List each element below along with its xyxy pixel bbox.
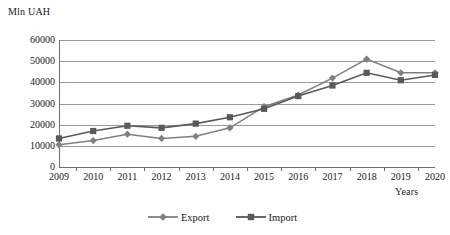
x-axis-tick-mark (281, 167, 282, 171)
x-axis-tick-label: 2014 (214, 172, 246, 182)
square-marker-icon (158, 125, 164, 131)
series-line-import (59, 73, 435, 139)
x-axis-tick-label: 2016 (282, 172, 314, 182)
y-axis-tick-label: 10000 (30, 141, 55, 151)
y-axis-tick-label: 50000 (30, 56, 55, 66)
y-axis-tick-labels: 0100002000030000400005000060000 (0, 34, 55, 174)
square-marker-icon (227, 114, 233, 120)
x-axis-tick-mark (315, 167, 316, 171)
square-marker-icon (295, 93, 301, 99)
square-marker-icon (329, 82, 335, 88)
x-axis-tick-mark (144, 167, 145, 171)
square-marker-icon (90, 128, 96, 134)
series-layer (59, 40, 435, 167)
square-marker-icon (124, 123, 130, 129)
diamond-marker-icon (192, 133, 199, 140)
x-axis-tick-mark (76, 167, 77, 171)
x-axis-tick-mark (247, 167, 248, 171)
x-axis-tick-label: 2010 (77, 172, 109, 182)
x-axis-tick-labels: 2009201020112012201320142015201620172018… (59, 172, 435, 186)
x-axis-tick-label: 2017 (316, 172, 348, 182)
y-axis-tick-label: 40000 (30, 77, 55, 87)
x-axis-tick-label: 2011 (111, 172, 143, 182)
x-axis-tick-mark (418, 167, 419, 171)
legend-item-export[interactable]: Export (148, 211, 210, 223)
x-axis-title: Years (395, 186, 418, 197)
x-axis-tick-label: 2020 (419, 172, 450, 182)
diamond-marker-icon (124, 131, 131, 138)
y-axis-tick-label: 60000 (30, 35, 55, 45)
x-axis-tick-mark (350, 167, 351, 171)
x-axis-tick-label: 2018 (351, 172, 383, 182)
x-axis-tick-mark (179, 167, 180, 171)
square-marker-icon (56, 135, 62, 141)
x-axis-tick-label: 2009 (43, 172, 75, 182)
square-marker-icon (364, 70, 370, 76)
x-axis-tick-mark (384, 167, 385, 171)
diamond-marker-icon (329, 75, 336, 82)
legend-label: Import (269, 212, 298, 223)
square-marker-icon (193, 121, 199, 127)
diamond-marker-icon (90, 137, 97, 144)
x-axis-tick-mark (110, 167, 111, 171)
x-axis-tick-label: 2015 (248, 172, 280, 182)
chart-legend: ExportImport (0, 208, 445, 226)
x-axis-tick-label: 2019 (385, 172, 417, 182)
square-marker-icon (236, 211, 266, 223)
diamond-marker-icon (363, 55, 370, 62)
square-marker-icon (261, 106, 267, 112)
y-axis-tick-label: 20000 (30, 120, 55, 130)
x-axis-tick-mark (213, 167, 214, 171)
square-marker-icon (432, 72, 438, 78)
diamond-marker-icon (226, 124, 233, 131)
y-axis-tick-label: 30000 (30, 99, 55, 109)
diamond-marker-icon (397, 69, 404, 76)
diamond-marker-icon (158, 135, 165, 142)
y-axis-title: Mln UAH (8, 6, 50, 17)
square-marker-icon (398, 77, 404, 83)
diamond-marker-icon (55, 141, 62, 148)
legend-label: Export (181, 212, 210, 223)
diamond-marker-icon (148, 211, 178, 223)
legend-item-import[interactable]: Import (236, 211, 298, 223)
x-axis-tick-label: 2013 (180, 172, 212, 182)
series-line-export (59, 59, 435, 145)
x-axis-tick-label: 2012 (146, 172, 178, 182)
